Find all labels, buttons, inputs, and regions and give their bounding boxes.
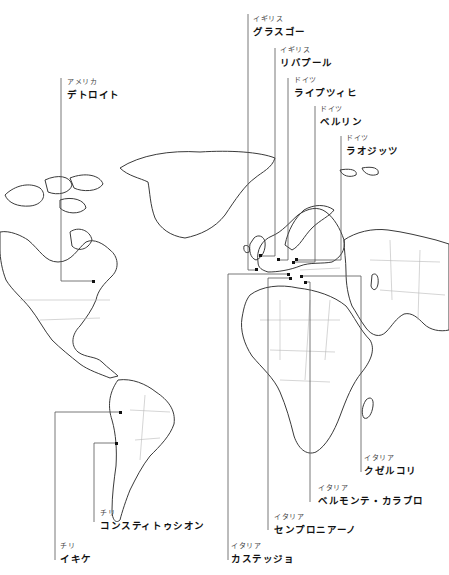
city-name: ラオジッツ <box>346 146 399 156</box>
city-name: ライプツィヒ <box>294 88 358 98</box>
marker-cuzelcori <box>300 275 303 278</box>
south-america-outline <box>110 380 175 522</box>
madagascar-outline <box>362 398 373 418</box>
marker-leipzig <box>277 258 280 261</box>
country-name: ドイツ <box>294 77 358 84</box>
country-name: イタリア <box>364 455 417 462</box>
label-detroit: アメリカ デトロイト <box>67 79 120 100</box>
label-lausitz: ドイツ ラオジッツ <box>346 135 399 156</box>
country-name: チリ <box>60 543 92 550</box>
africa-outline <box>241 286 372 453</box>
country-name: アメリカ <box>67 79 120 86</box>
country-name: ドイツ <box>346 135 399 142</box>
label-leipzig: ドイツ ライプツィヒ <box>294 77 358 98</box>
label-berlin: ドイツ ベルリン <box>320 106 362 127</box>
marker-castegio <box>287 273 290 276</box>
marker-liverpool <box>259 254 262 257</box>
country-name: チリ <box>100 510 205 517</box>
label-iquique: チリ イキケ <box>60 543 92 564</box>
label-glasgow: イギリス グラスゴー <box>253 16 306 37</box>
marker-sempronia <box>289 277 292 280</box>
marker-belmonte <box>304 281 307 284</box>
country-name: ドイツ <box>320 106 362 113</box>
caspian-sea <box>371 274 378 290</box>
marker-lausitz <box>295 258 298 261</box>
arctic-islands <box>5 175 103 213</box>
label-cuzelcori: イタリア クゼルコリ <box>364 455 417 476</box>
city-name: グラスゴー <box>253 27 306 37</box>
city-name: センプロニアーノ <box>274 525 357 535</box>
label-liverpool: イギリス リバプール <box>280 47 333 68</box>
country-name: イタリア <box>318 485 424 492</box>
marker-constitucion <box>115 442 118 445</box>
city-name: ベルリン <box>320 117 362 127</box>
city-name: クゼルコリ <box>364 466 417 476</box>
city-name: ベルモンテ・カラブロ <box>318 496 424 506</box>
city-name: デトロイト <box>67 90 120 100</box>
city-name: コンスティトゥシオン <box>100 521 205 531</box>
arctic-russia-islands <box>340 167 378 176</box>
label-castegio: イタリア カステッジョ <box>231 543 295 564</box>
label-belmonte: イタリア ベルモンテ・カラブロ <box>318 485 424 506</box>
city-name: リバプール <box>280 58 333 68</box>
city-markers <box>92 254 307 445</box>
label-sempronia: イタリア センプロニアーノ <box>274 514 357 535</box>
city-name: イキケ <box>60 554 92 564</box>
marker-berlin <box>292 261 295 264</box>
north-america-outline <box>0 232 118 378</box>
country-name: イギリス <box>253 16 306 23</box>
marker-glasgow <box>255 268 258 271</box>
country-borders <box>20 240 445 460</box>
label-constitucion: チリ コンスティトゥシオン <box>100 510 205 531</box>
europe-outline <box>258 208 345 272</box>
country-name: イタリア <box>274 514 357 521</box>
country-name: イギリス <box>280 47 333 54</box>
country-name: イタリア <box>231 543 295 550</box>
city-name: カステッジョ <box>231 554 295 564</box>
asia-outline <box>344 229 449 335</box>
marker-iquique <box>119 411 122 414</box>
marker-detroit <box>92 280 95 283</box>
greenland-outline <box>120 151 275 238</box>
